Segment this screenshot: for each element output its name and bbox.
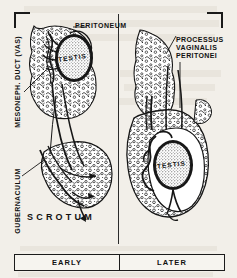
caption-early: EARLY (15, 255, 120, 270)
label-scrotum: SCROTUM (27, 212, 95, 222)
label-peritoneum: PERITONEUM (75, 22, 127, 30)
caption-bar: EARLY LATER (14, 254, 225, 271)
anatomy-figure: PERITONEUM PROCESSUS VAGINALIS PERITONEI… (0, 0, 237, 278)
label-mesonephric-duct-vas: MESONEPH. DUCT (VAS) (14, 34, 22, 130)
label-gubernaculum: GUBERNACULUM (14, 161, 22, 241)
label-processus-vaginalis-peritonei: PROCESSUS VAGINALIS PERITONEI (176, 36, 224, 59)
caption-later: LATER (120, 255, 224, 270)
